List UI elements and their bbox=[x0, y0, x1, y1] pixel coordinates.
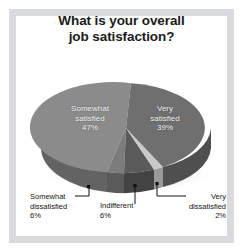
callout-label-indifferent: Indifferent 6% bbox=[100, 201, 158, 220]
callout-value: 6% bbox=[30, 211, 96, 221]
pie-side-very-dissatisfied bbox=[154, 167, 163, 190]
pie-side-somewhat-dissatisfied bbox=[107, 172, 124, 193]
callout-line-1: Very bbox=[211, 192, 226, 201]
callout-line-1: Somewhat bbox=[30, 192, 65, 201]
callout-value: 6% bbox=[100, 211, 158, 221]
callout-line-1: Indifferent bbox=[100, 201, 133, 210]
chart-screenshot: What is your overall job satisfaction? bbox=[0, 0, 243, 252]
callout-value: 2% bbox=[168, 211, 226, 221]
callout-label-somewhat-dissatisfied: Somewhat dissatisfied 6% bbox=[30, 192, 96, 221]
callout-line-2: dissatisfied bbox=[189, 202, 226, 211]
pie-chart: Somewhat satisfied 47% Very satisfied 39… bbox=[0, 0, 243, 252]
callout-label-very-dissatisfied: Very dissatisfied 2% bbox=[168, 192, 226, 221]
callout-line-2: dissatisfied bbox=[30, 202, 67, 211]
